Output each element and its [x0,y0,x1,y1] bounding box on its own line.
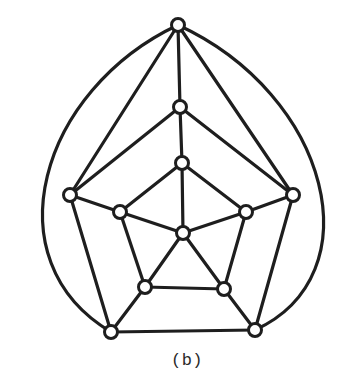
node-C1 [176,157,189,170]
edge-C1-CTR [182,163,183,233]
edge-M1-OL [70,107,180,195]
edge-BL-BR [111,330,255,332]
node-IR [240,206,253,219]
edge-T-OR [178,25,293,195]
figure-caption: (b) [0,351,352,370]
edge-OL-BL [70,195,111,332]
graph-diagram [0,0,352,389]
edge-CTR-LR [183,233,224,289]
edge-C1-IR [182,163,246,212]
node-CTR [177,227,190,240]
edge-M1-C1 [180,107,182,163]
edge-CTR-IR [183,212,246,233]
edge-IR-LR [224,212,246,289]
node-T [172,19,185,32]
node-M1 [174,101,187,114]
edge-T-M1 [178,25,180,107]
node-OL [64,189,77,202]
edge-IL-LL [120,212,145,287]
node-OR [287,189,300,202]
edge-CTR-IL [120,212,183,233]
edge-LL-LR [145,287,224,289]
node-LR [218,283,231,296]
node-BL [105,326,118,339]
edge-LL-BL [111,287,145,332]
edge-C1-IL [120,163,182,212]
node-IL [114,206,127,219]
edge-M1-OR [180,107,293,195]
edge-T-OL [70,25,178,195]
node-BR [249,324,262,337]
graph-edges [70,25,293,332]
node-LL [139,281,152,294]
edge-CTR-LL [145,233,183,287]
